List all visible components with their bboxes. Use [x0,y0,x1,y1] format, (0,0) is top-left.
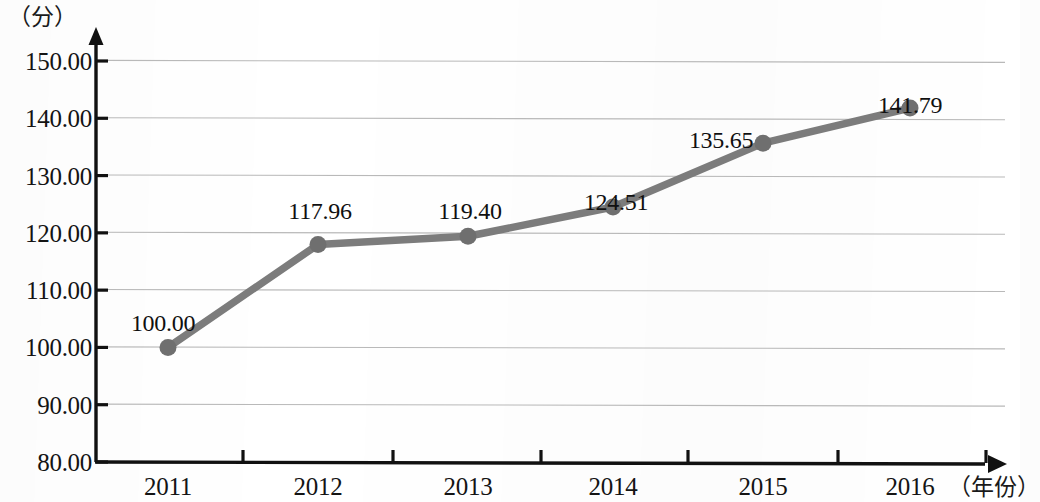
gridline-120 [96,232,1005,234]
data-point-label-2016: 141.79 [878,93,942,117]
data-point-marker-2012[interactable] [310,236,327,253]
x-axis-tick-label-2015: 2015 [739,474,788,499]
x-axis-tick-label-2012: 2012 [294,474,343,499]
data-point-marker-2013[interactable] [460,228,477,245]
gridline-130 [96,175,1005,177]
gridline-150 [96,60,1005,62]
x-axis-tick-label-2014: 2014 [589,474,638,499]
y-axis-arrow [89,27,104,45]
data-point-label-2011: 100.00 [131,311,195,335]
gridline-90 [96,404,1005,406]
gridline-110 [96,290,1005,292]
x-axis-arrow [988,455,1007,473]
series-line [168,108,910,347]
data-point-marker-2015[interactable] [755,135,772,152]
gridline-100 [96,347,1005,349]
x-axis-tick-label-2016: 2016 [886,474,935,499]
x-axis-tick-label-2011: 2011 [144,474,192,499]
data-point-label-2015: 135.65 [689,128,753,152]
data-point-label-2013: 119.40 [438,199,501,223]
data-point-label-2012: 117.96 [288,199,351,223]
data-point-label-2014: 124.51 [584,190,648,214]
x-axis-unit-label: （年份） [948,476,1040,499]
data-point-marker-2011[interactable] [160,339,177,356]
x-axis-tick-label-2013: 2013 [444,474,493,499]
